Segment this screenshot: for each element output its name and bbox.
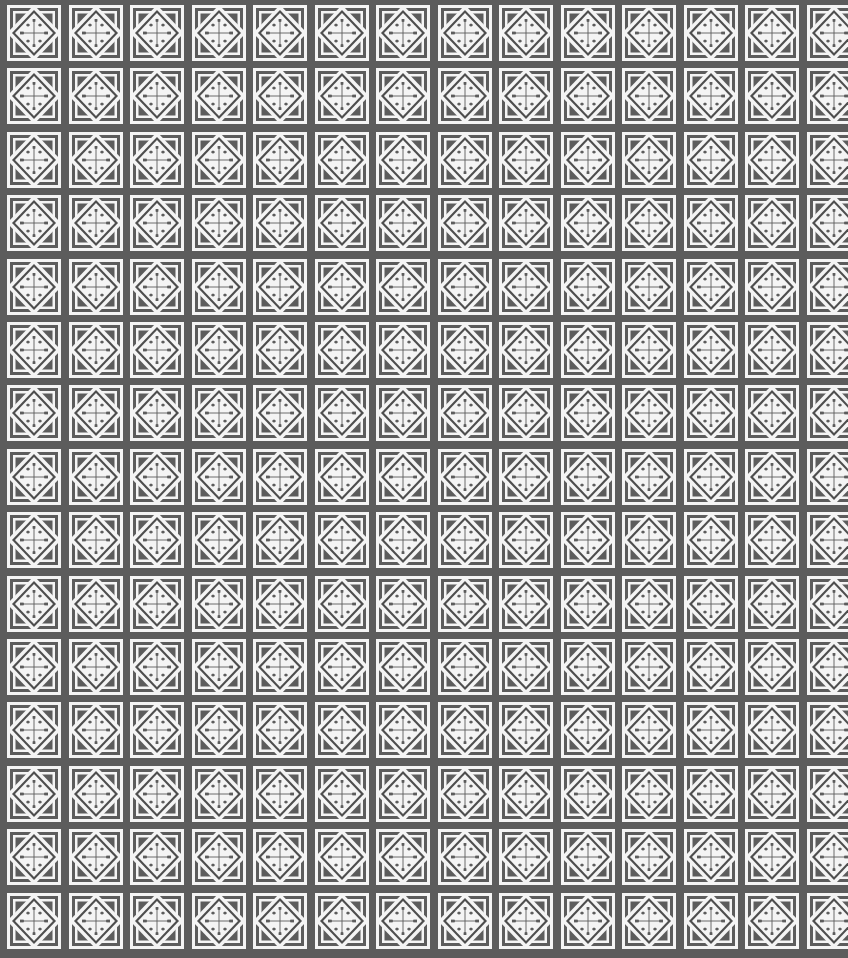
diamond-cross-tile-icon [6, 638, 62, 696]
diamond-cross-tile-icon [129, 321, 185, 379]
diamond-cross-tile-icon [375, 448, 431, 506]
diamond-cross-tile-icon [6, 131, 62, 189]
diamond-cross-tile-icon [806, 67, 848, 125]
diamond-cross-tile-icon [437, 131, 493, 189]
diamond-cross-tile-icon [437, 321, 493, 379]
diamond-cross-tile-icon [252, 892, 308, 950]
diamond-cross-tile-icon [683, 384, 739, 442]
diamond-cross-tile-icon [744, 131, 800, 189]
diamond-cross-tile-icon [744, 892, 800, 950]
diamond-cross-tile-icon [683, 892, 739, 950]
diamond-cross-tile-icon [560, 701, 616, 759]
diamond-cross-tile-icon [437, 258, 493, 316]
diamond-cross-tile-icon [129, 828, 185, 886]
diamond-cross-tile-icon [129, 892, 185, 950]
diamond-cross-tile-icon [683, 448, 739, 506]
diamond-cross-tile-icon [683, 67, 739, 125]
diamond-cross-tile-icon [498, 321, 554, 379]
diamond-cross-tile-icon [683, 321, 739, 379]
diamond-cross-tile-icon [252, 511, 308, 569]
diamond-cross-tile-icon [314, 765, 370, 823]
diamond-cross-tile-icon [621, 701, 677, 759]
diamond-cross-tile-icon [498, 194, 554, 252]
diamond-cross-tile-icon [621, 258, 677, 316]
diamond-cross-tile-icon [191, 828, 247, 886]
diamond-cross-tile-icon [683, 765, 739, 823]
diamond-cross-tile-icon [560, 765, 616, 823]
diamond-cross-tile-icon [744, 828, 800, 886]
diamond-cross-tile-icon [191, 638, 247, 696]
diamond-cross-tile-icon [314, 131, 370, 189]
diamond-cross-tile-icon [314, 511, 370, 569]
diamond-cross-tile-icon [621, 575, 677, 633]
diamond-cross-tile-icon [498, 511, 554, 569]
diamond-cross-tile-icon [621, 765, 677, 823]
diamond-cross-tile-icon [6, 4, 62, 62]
diamond-cross-tile-icon [375, 765, 431, 823]
diamond-cross-tile-icon [621, 828, 677, 886]
diamond-cross-tile-icon [744, 384, 800, 442]
diamond-cross-tile-icon [437, 765, 493, 823]
diamond-cross-tile-icon [375, 194, 431, 252]
diamond-cross-tile-icon [129, 701, 185, 759]
diamond-cross-tile-icon [252, 258, 308, 316]
diamond-cross-tile-icon [498, 258, 554, 316]
diamond-cross-tile-icon [314, 4, 370, 62]
diamond-cross-tile-icon [375, 828, 431, 886]
diamond-cross-tile-icon [744, 4, 800, 62]
diamond-cross-tile-icon [621, 638, 677, 696]
diamond-cross-tile-icon [6, 765, 62, 823]
diamond-cross-tile-icon [806, 384, 848, 442]
diamond-cross-tile-icon [560, 258, 616, 316]
diamond-cross-tile-icon [68, 321, 124, 379]
diamond-cross-tile-icon [191, 194, 247, 252]
diamond-cross-tile-icon [498, 575, 554, 633]
diamond-cross-tile-icon [314, 258, 370, 316]
diamond-cross-tile-icon [437, 511, 493, 569]
diamond-cross-tile-icon [314, 575, 370, 633]
diamond-cross-tile-icon [437, 67, 493, 125]
diamond-cross-tile-icon [375, 511, 431, 569]
diamond-cross-tile-icon [129, 448, 185, 506]
diamond-cross-tile-icon [744, 638, 800, 696]
diamond-cross-tile-icon [252, 194, 308, 252]
diamond-cross-tile-icon [252, 384, 308, 442]
diamond-cross-tile-icon [375, 575, 431, 633]
diamond-cross-tile-icon [68, 511, 124, 569]
diamond-cross-tile-icon [621, 892, 677, 950]
diamond-cross-tile-icon [375, 4, 431, 62]
diamond-cross-tile-icon [314, 701, 370, 759]
diamond-cross-tile-icon [252, 4, 308, 62]
diamond-cross-tile-icon [806, 828, 848, 886]
diamond-cross-tile-icon [68, 828, 124, 886]
diamond-cross-tile-icon [68, 194, 124, 252]
diamond-cross-tile-icon [129, 258, 185, 316]
diamond-cross-tile-icon [437, 448, 493, 506]
diamond-cross-tile-icon [560, 448, 616, 506]
diamond-cross-tile-icon [683, 258, 739, 316]
diamond-cross-tile-icon [560, 511, 616, 569]
diamond-cross-tile-icon [621, 384, 677, 442]
diamond-cross-tile-icon [498, 448, 554, 506]
diamond-cross-tile-icon [375, 321, 431, 379]
diamond-cross-tile-icon [314, 384, 370, 442]
diamond-cross-tile-icon [191, 575, 247, 633]
diamond-cross-tile-icon [314, 828, 370, 886]
diamond-cross-tile-icon [806, 448, 848, 506]
diamond-cross-tile-icon [375, 384, 431, 442]
diamond-cross-tile-icon [68, 131, 124, 189]
diamond-cross-tile-icon [437, 194, 493, 252]
diamond-cross-tile-icon [191, 511, 247, 569]
diamond-cross-tile-icon [129, 194, 185, 252]
diamond-cross-tile-icon [498, 67, 554, 125]
diamond-cross-tile-icon [683, 194, 739, 252]
diamond-cross-tile-icon [191, 321, 247, 379]
diamond-cross-tile-icon [437, 384, 493, 442]
diamond-cross-tile-icon [744, 194, 800, 252]
diamond-cross-tile-icon [129, 765, 185, 823]
diamond-cross-tile-icon [68, 384, 124, 442]
tile-pattern [0, 0, 848, 958]
diamond-cross-tile-icon [375, 701, 431, 759]
diamond-cross-tile-icon [744, 765, 800, 823]
diamond-cross-tile-icon [560, 321, 616, 379]
